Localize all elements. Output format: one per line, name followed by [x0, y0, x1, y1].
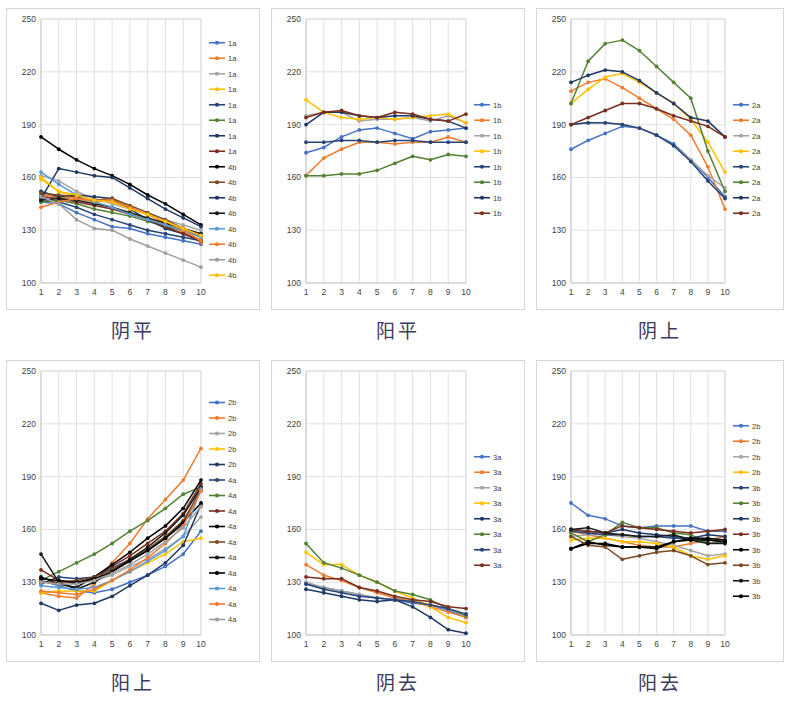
series-marker [127, 542, 131, 546]
series-marker [181, 258, 185, 262]
series-marker [705, 179, 709, 183]
series-marker [637, 554, 641, 558]
series-marker [321, 110, 325, 114]
series-marker [92, 207, 96, 211]
series-marker [569, 102, 573, 106]
legend-marker [479, 548, 483, 552]
series-marker [671, 80, 675, 84]
legend-label: 4b [228, 225, 236, 234]
series-marker [569, 80, 573, 84]
series-marker [56, 591, 60, 595]
series-marker [464, 631, 468, 635]
series-marker [163, 540, 167, 544]
series-marker [671, 533, 675, 537]
series-marker [74, 170, 78, 174]
series-marker [392, 142, 396, 146]
series-marker [671, 114, 675, 118]
series-marker [603, 75, 607, 79]
series-marker [569, 147, 573, 151]
series-marker [586, 73, 590, 77]
x-axis-tick-label: 6 [392, 287, 397, 297]
series-marker [181, 492, 185, 496]
series-marker [39, 205, 43, 209]
legend-label: 2a [752, 116, 761, 125]
series-marker [74, 211, 78, 215]
series-marker [39, 568, 43, 572]
legend-marker [214, 258, 218, 262]
series-marker [39, 176, 43, 180]
chart-svg-4: 100130160190220250123456789102b2b2b2b2b4… [7, 361, 259, 661]
x-axis-tick-label: 9 [445, 287, 450, 297]
legend-label: 2b [228, 445, 236, 454]
series-marker [199, 529, 203, 533]
legend-label: 4b [228, 163, 236, 172]
x-axis-tick-label: 5 [637, 287, 642, 297]
series-marker [145, 244, 149, 248]
series-marker [392, 161, 396, 165]
series-marker [688, 542, 692, 546]
series-marker [339, 566, 343, 570]
series-marker [723, 535, 727, 539]
legend-marker [214, 555, 218, 559]
panel-title-5: 阴去 [376, 668, 420, 695]
series-marker [74, 190, 78, 194]
chart-panel-4: 100130160190220250123456789102b2b2b2b2b4… [6, 360, 260, 662]
series-marker [723, 170, 727, 174]
panel-cell-6: 100130160190220250123456789102b2b2b2b3b3… [530, 352, 789, 705]
series-marker [127, 550, 131, 554]
x-axis-tick-label: 4 [91, 639, 96, 649]
legend-marker [738, 579, 742, 583]
series-marker [688, 133, 692, 137]
legend-marker [214, 56, 218, 60]
series-marker [603, 109, 607, 113]
y-axis-tick-label: 190 [21, 472, 35, 482]
x-axis-tick-label: 1 [38, 287, 43, 297]
series-marker [654, 133, 658, 137]
legend-label: 4a [228, 538, 237, 547]
series-marker [688, 119, 692, 123]
legend-marker [214, 227, 218, 231]
series-marker [357, 172, 361, 176]
series-marker [127, 223, 131, 227]
legend-label: 3b [752, 499, 760, 508]
panel-title-2: 阳平 [376, 316, 420, 343]
legend-label: 2a [752, 101, 761, 110]
series-marker [723, 197, 727, 201]
legend-label: 3b [752, 561, 760, 570]
x-axis-tick-label: 6 [127, 287, 132, 297]
series-marker [705, 557, 709, 561]
series-marker [92, 195, 96, 199]
series-marker [181, 552, 185, 556]
legend-label: 2b [228, 398, 236, 407]
series-marker [671, 102, 675, 106]
series-line [41, 491, 201, 595]
series-marker [145, 545, 149, 549]
series-marker [163, 202, 167, 206]
series-marker [321, 587, 325, 591]
series-line [306, 577, 466, 609]
series-marker [163, 524, 167, 528]
series-marker [145, 218, 149, 222]
series-marker [163, 561, 167, 565]
series-marker [56, 575, 60, 579]
legend-marker [214, 87, 218, 91]
x-axis-tick-label: 3 [602, 639, 607, 649]
x-axis-tick-label: 10 [461, 287, 471, 297]
series-marker [723, 528, 727, 532]
panel-cell-5: 100130160190220250123456789103a3a3a3a3a3… [265, 352, 530, 705]
legend-label: 4a [228, 569, 237, 578]
panel-cell-3: 100130160190220250123456789102a2a2a2a2a2… [530, 0, 789, 352]
legend-label: 1a [228, 54, 237, 63]
series-marker [304, 123, 308, 127]
series-marker [339, 147, 343, 151]
legend-marker [479, 532, 483, 536]
chart-svg-2: 100130160190220250123456789101b1b1b1b1b1… [272, 9, 524, 309]
legend-label: 3a [493, 453, 502, 462]
series-marker [339, 594, 343, 598]
series-marker [199, 515, 203, 519]
legend-marker [214, 165, 218, 169]
legend-label: 1a [228, 85, 237, 94]
series-marker [446, 112, 450, 116]
legend-label: 2b [752, 453, 760, 462]
series-marker [163, 235, 167, 239]
